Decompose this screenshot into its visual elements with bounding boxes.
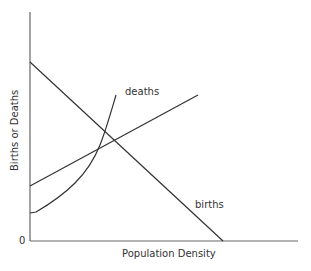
y-axis-label: Births or Deaths bbox=[9, 90, 20, 171]
deaths-label: deaths bbox=[125, 86, 159, 97]
deaths-curve bbox=[30, 95, 116, 213]
chart: deaths births 0 Population Density Birth… bbox=[0, 0, 311, 271]
origin-tick-label: 0 bbox=[19, 235, 25, 246]
rising-line bbox=[30, 95, 198, 186]
births-label: births bbox=[195, 199, 224, 210]
x-axis-label: Population Density bbox=[122, 248, 216, 259]
